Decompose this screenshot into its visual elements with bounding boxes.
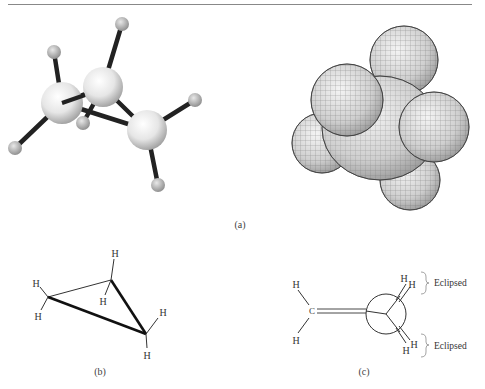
carbon-label: C	[309, 306, 315, 316]
h-label: H	[292, 335, 299, 346]
h-label: H	[159, 307, 166, 318]
ball-and-stick-model	[8, 17, 202, 192]
space-filling-model	[292, 26, 469, 210]
caption-b: (b)	[94, 366, 106, 378]
eclipsed-label-top: Eclipsed	[434, 278, 467, 288]
h-label: H	[99, 296, 106, 307]
h-label: H	[292, 279, 299, 290]
h-label: H	[402, 345, 409, 356]
brace-icon	[421, 272, 429, 294]
newman-projection: C H H H H H H Eclipsed Eclipsed	[292, 272, 467, 357]
h-label: H	[410, 339, 417, 350]
h-label: H	[143, 350, 150, 361]
h-label: H	[400, 273, 407, 284]
caption-a: (a)	[234, 219, 245, 231]
h-label: H	[34, 311, 41, 322]
h-label: H	[32, 278, 39, 289]
h-label: H	[408, 279, 415, 290]
caption-c: (c)	[358, 366, 369, 378]
eclipsed-label-bottom: Eclipsed	[434, 341, 467, 351]
h-label: H	[111, 248, 118, 259]
brace-icon	[421, 334, 429, 357]
perspective-drawing: H H H H H H	[32, 248, 166, 361]
cyclopropane-figure: (a) H H H H H H (b) C H H H H	[0, 0, 485, 389]
